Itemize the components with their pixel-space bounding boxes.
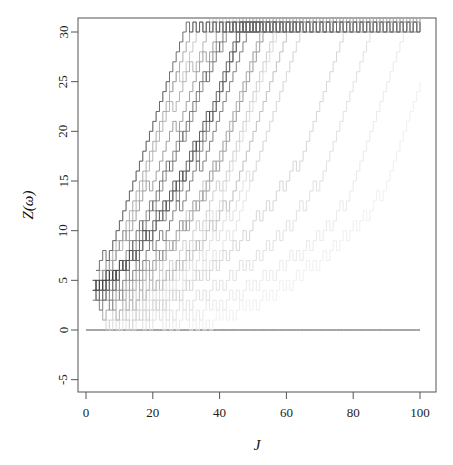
x-tick-label-100: 100	[410, 405, 430, 420]
y-tick-label-5: 5	[56, 277, 71, 284]
x-tick-label-80: 80	[347, 405, 360, 420]
y-tick-label-10: 10	[56, 224, 71, 237]
trace-path-07	[93, 22, 420, 290]
y-tick-label--5: -5	[56, 374, 71, 385]
trace-path-16	[126, 22, 420, 330]
axis-labels: 020406080100-5051015202530JZ(ω)	[20, 26, 430, 454]
x-tick-label-20: 20	[146, 405, 159, 420]
data-traces	[86, 12, 420, 330]
y-tick-label-25: 25	[56, 75, 71, 88]
trace-path-20	[119, 22, 420, 310]
y-tick-label-15: 15	[56, 175, 71, 188]
x-axis-title: J	[254, 437, 262, 453]
trace-path-10	[103, 22, 420, 330]
x-tick-label-0: 0	[83, 405, 90, 420]
x-tick-label-40: 40	[213, 405, 226, 420]
trace-path-06	[93, 22, 420, 290]
y-tick-label-20: 20	[56, 125, 71, 138]
chart-figure: 020406080100-5051015202530JZ(ω)	[0, 0, 453, 465]
plot-box	[78, 18, 436, 392]
trace-path-08	[96, 22, 420, 310]
trace-path-23	[96, 22, 420, 270]
y-axis-title: Z(ω)	[20, 191, 37, 220]
x-tick-label-60: 60	[280, 405, 293, 420]
trace-path-01	[96, 12, 420, 280]
trace-path-12	[116, 22, 420, 330]
trace-path-21	[103, 22, 420, 270]
trace-path-03	[93, 22, 420, 290]
y-tick-label-30: 30	[56, 26, 71, 39]
plot-canvas: 020406080100-5051015202530JZ(ω)	[0, 0, 453, 465]
y-tick-label-0: 0	[56, 327, 71, 334]
trace-path-02	[96, 12, 420, 280]
